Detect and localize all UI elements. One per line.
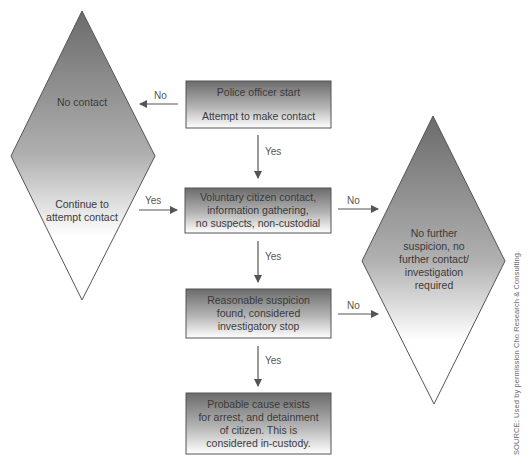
no-contact-label: No contact <box>32 96 132 109</box>
suspicion-line-3: investigatory stop <box>218 320 300 333</box>
probable-line-3: of citizen. This is <box>220 424 297 437</box>
voluntary-line-3: no suspects, non-custodial <box>196 217 320 230</box>
voluntary-contact-text: Voluntary citizen contact, information g… <box>185 188 331 233</box>
start-box-subtitle: Attempt to make contact <box>202 110 315 123</box>
continue-line-2: attempt contact <box>30 211 134 224</box>
no-further-line-1: No further <box>380 227 488 240</box>
no-further-suspicion-label: No further suspicion, no further contact… <box>380 227 488 292</box>
edge-label-no-2: No <box>347 195 360 207</box>
source-attribution: SOURCE: Used by permission Cho Research … <box>512 251 521 455</box>
voluntary-line-2: information gathering, <box>207 204 309 217</box>
no-contact-text: No contact <box>57 96 107 108</box>
no-further-line-4: investigation <box>380 266 488 279</box>
no-further-line-2: suspicion, no <box>380 240 488 253</box>
edge-label-no-1: No <box>154 90 167 102</box>
edge-label-yes-1: Yes <box>265 146 281 158</box>
suspicion-line-2: found, considered <box>217 307 300 320</box>
continue-line-1: Continue to <box>30 198 134 211</box>
start-box-title: Police officer start <box>217 86 300 99</box>
edge-label-no-3: No <box>347 300 360 312</box>
reasonable-suspicion-text: Reasonable suspicion found, considered i… <box>186 289 331 338</box>
start-box-text: Police officer start Attempt to make con… <box>186 81 331 128</box>
suspicion-line-1: Reasonable suspicion <box>207 294 310 307</box>
edge-label-yes-3: Yes <box>265 251 281 263</box>
probable-cause-text: Probable cause exists for arrest, and de… <box>186 393 331 454</box>
voluntary-line-1: Voluntary citizen contact, <box>200 191 316 204</box>
probable-line-1: Probable cause exists <box>207 398 310 411</box>
edge-label-yes-2: Yes <box>145 195 161 207</box>
probable-line-2: for arrest, and detainment <box>198 411 318 424</box>
no-further-line-5: required <box>380 279 488 292</box>
no-further-line-3: further contact/ <box>380 253 488 266</box>
probable-line-4: considered in-custody. <box>206 437 310 450</box>
edge-label-yes-4: Yes <box>265 355 281 367</box>
no-contact-decision-diamond <box>11 11 155 300</box>
continue-attempt-label: Continue to attempt contact <box>30 198 134 224</box>
